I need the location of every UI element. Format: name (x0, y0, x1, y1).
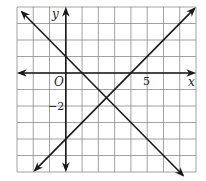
graph-line-1 (22, 12, 183, 175)
y-axis-label: y (51, 7, 59, 21)
x-axis-label: x (188, 75, 195, 89)
coordinate-plane: y x O 5 −2 (0, 0, 206, 181)
origin-label: O (54, 75, 64, 89)
y-tick-label-minus-2: −2 (48, 100, 64, 113)
x-tick-label-5: 5 (143, 75, 150, 88)
lines (22, 9, 194, 176)
grid (17, 7, 196, 172)
